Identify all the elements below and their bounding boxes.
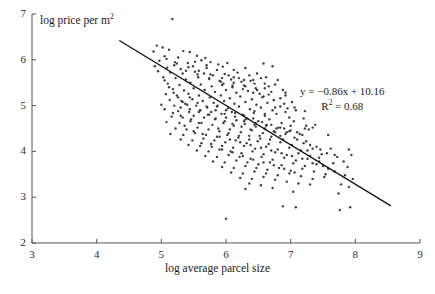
data-point (192, 130, 194, 132)
data-point (244, 123, 246, 125)
data-point (286, 107, 288, 109)
data-point (255, 103, 257, 105)
trend-line (119, 41, 391, 206)
data-point (222, 82, 224, 84)
data-point (348, 148, 350, 150)
data-point (262, 153, 264, 155)
data-point (260, 147, 262, 149)
data-point (191, 139, 193, 141)
data-point (293, 120, 295, 122)
data-point (231, 84, 233, 86)
data-point (227, 154, 229, 156)
data-point (225, 89, 227, 91)
data-point (270, 91, 272, 93)
data-point (189, 108, 191, 110)
y-tick-label: 6 (10, 54, 26, 65)
y-axis-title-superscript: 2 (110, 12, 114, 21)
data-point (194, 60, 196, 62)
data-point (288, 172, 290, 174)
data-point (252, 117, 254, 119)
data-point (242, 88, 244, 90)
data-point (212, 160, 214, 162)
data-point (248, 138, 250, 140)
data-point (258, 135, 260, 137)
data-point (173, 64, 175, 66)
data-point (267, 143, 269, 145)
data-point (200, 142, 202, 144)
data-point (231, 123, 233, 125)
data-point (293, 106, 295, 108)
data-point (207, 150, 209, 152)
data-point (204, 155, 206, 157)
data-point (239, 95, 241, 97)
data-point (230, 171, 232, 173)
data-point (162, 76, 164, 78)
data-point (203, 72, 205, 74)
data-point (344, 174, 346, 176)
data-point (231, 151, 233, 153)
data-point (283, 168, 285, 170)
data-point (233, 76, 235, 78)
data-point (227, 74, 229, 76)
data-point (239, 141, 241, 143)
data-point (221, 148, 223, 150)
data-point (271, 65, 273, 67)
data-point (173, 104, 175, 106)
data-point (224, 113, 226, 115)
r-squared-value: R2 = 0.68 (300, 99, 385, 114)
data-point (169, 99, 171, 101)
data-point (192, 87, 194, 89)
data-point (279, 97, 281, 99)
data-point (261, 121, 263, 123)
data-point (187, 144, 189, 146)
data-point (243, 145, 245, 147)
data-point (289, 125, 291, 127)
data-point (216, 105, 218, 107)
data-point (180, 68, 182, 70)
data-point (314, 124, 316, 126)
data-point (176, 62, 178, 64)
data-point (180, 106, 182, 108)
data-point (265, 146, 267, 148)
data-point (309, 144, 311, 146)
data-point (216, 156, 218, 158)
data-point (296, 131, 298, 133)
data-point (214, 117, 216, 119)
data-point (196, 126, 198, 128)
data-point (171, 18, 173, 20)
x-tick-label: 9 (411, 249, 429, 260)
data-point (247, 90, 249, 92)
data-point (306, 149, 308, 151)
data-point (209, 73, 211, 75)
data-point (229, 97, 231, 99)
data-point (163, 79, 165, 81)
data-point (180, 114, 182, 116)
data-point (220, 113, 222, 115)
data-point (205, 64, 207, 66)
data-point (305, 140, 307, 142)
data-point (235, 159, 237, 161)
data-point (302, 117, 304, 119)
data-point (188, 111, 190, 113)
data-point (282, 205, 284, 207)
data-point (192, 65, 194, 67)
data-point (218, 136, 220, 138)
data-point (235, 119, 237, 121)
data-point (251, 150, 253, 152)
data-point (218, 130, 220, 132)
data-point (311, 178, 313, 180)
data-point (256, 72, 258, 74)
data-point (296, 138, 298, 140)
data-point (301, 158, 303, 160)
data-point (266, 102, 268, 104)
data-point (232, 147, 234, 149)
data-point (172, 92, 174, 94)
data-point (262, 161, 264, 163)
data-point (240, 125, 242, 127)
data-point (152, 50, 154, 52)
data-point (252, 158, 254, 160)
data-point (249, 108, 251, 110)
data-point (213, 102, 215, 104)
data-point (242, 155, 244, 157)
data-point (248, 182, 250, 184)
